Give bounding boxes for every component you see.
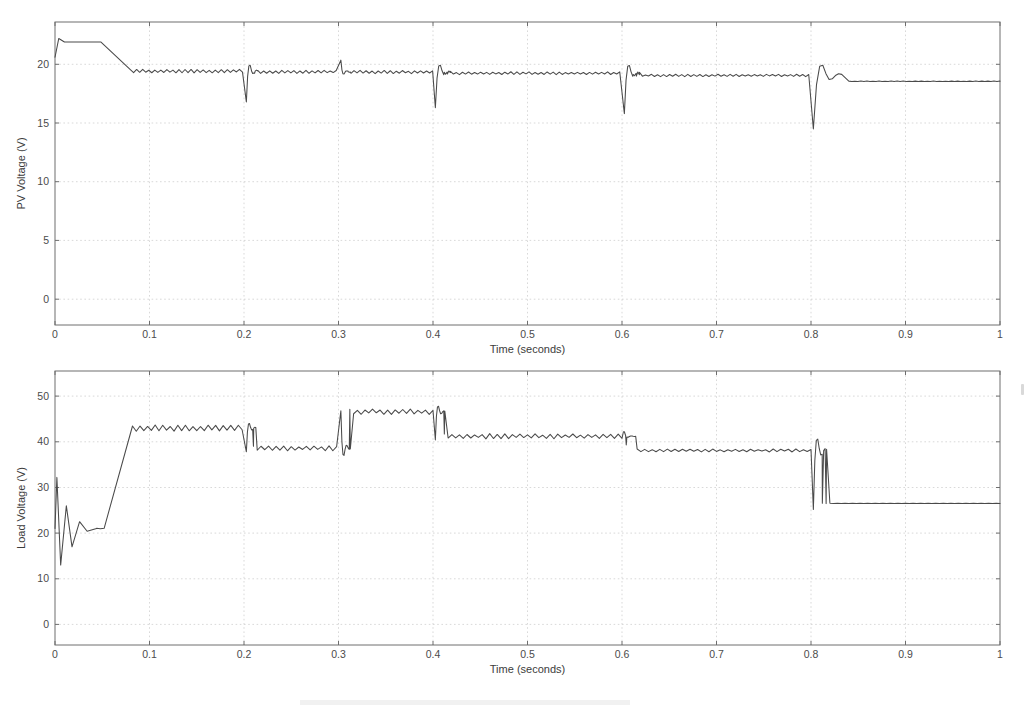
svg-text:0.5: 0.5 [520,648,535,660]
svg-text:PV Voltage (V): PV Voltage (V) [15,137,27,209]
svg-text:0.9: 0.9 [898,328,913,340]
svg-text:0.9: 0.9 [898,648,913,660]
svg-text:Load Voltage (V): Load Voltage (V) [15,467,27,549]
caption-smudge [300,700,630,705]
svg-text:0.3: 0.3 [331,328,346,340]
svg-text:0.5: 0.5 [520,328,535,340]
pv-voltage-plot: 00.10.20.30.40.50.60.70.80.9105101520Tim… [0,0,1031,360]
svg-text:0.3: 0.3 [331,648,346,660]
svg-text:0.7: 0.7 [709,328,724,340]
svg-text:0: 0 [52,648,58,660]
svg-text:0.1: 0.1 [142,328,157,340]
svg-text:0.2: 0.2 [237,328,252,340]
svg-text:0: 0 [43,618,49,630]
svg-text:30: 30 [37,481,49,493]
svg-text:0.6: 0.6 [615,328,630,340]
svg-text:1: 1 [997,328,1003,340]
svg-text:1: 1 [997,648,1003,660]
svg-text:0.8: 0.8 [804,648,819,660]
svg-text:10: 10 [37,175,49,187]
svg-text:40: 40 [37,435,49,447]
svg-text:0.6: 0.6 [615,648,630,660]
svg-text:0: 0 [52,328,58,340]
svg-text:50: 50 [37,390,49,402]
svg-text:0.8: 0.8 [804,328,819,340]
scan-artifact-mark [1021,384,1024,395]
svg-text:0.4: 0.4 [426,328,441,340]
svg-text:15: 15 [37,117,49,129]
svg-text:0.1: 0.1 [142,648,157,660]
svg-text:0: 0 [43,293,49,305]
svg-text:0.7: 0.7 [709,648,724,660]
figure-canvas: 00.10.20.30.40.50.60.70.80.9105101520Tim… [0,0,1031,712]
svg-text:10: 10 [37,572,49,584]
svg-text:20: 20 [37,58,49,70]
svg-text:0.2: 0.2 [237,648,252,660]
load-voltage-plot: 00.10.20.30.40.50.60.70.80.9101020304050… [0,352,1031,712]
svg-text:Time (seconds): Time (seconds) [490,663,565,675]
svg-text:0.4: 0.4 [426,648,441,660]
svg-text:20: 20 [37,527,49,539]
svg-text:5: 5 [43,234,49,246]
